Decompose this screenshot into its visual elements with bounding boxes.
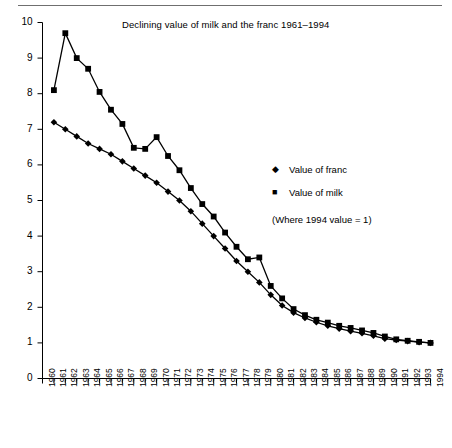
data-point-milk bbox=[359, 328, 365, 334]
square-marker-icon: ■ bbox=[272, 188, 284, 197]
x-axis-tick-label: 1976 bbox=[229, 368, 239, 387]
x-axis-tick-label: 1979 bbox=[263, 368, 273, 387]
x-axis-tick-label: 1963 bbox=[81, 368, 91, 387]
data-point-milk bbox=[211, 214, 217, 220]
x-axis-tick-label: 1960 bbox=[47, 368, 57, 387]
data-point-franc bbox=[130, 165, 137, 172]
y-axis-tick-label: 5 bbox=[11, 194, 33, 205]
x-axis-tick-label: 1966 bbox=[115, 368, 125, 387]
x-axis-tick-label: 1991 bbox=[400, 368, 410, 387]
data-point-milk bbox=[371, 330, 377, 336]
x-axis-tick-label: 1968 bbox=[138, 368, 148, 387]
data-point-milk bbox=[428, 340, 434, 346]
data-point-milk bbox=[119, 121, 125, 127]
data-point-franc bbox=[62, 126, 69, 133]
x-axis-tick-label: 1994 bbox=[435, 368, 445, 387]
x-axis-tick-label: 1964 bbox=[92, 368, 102, 387]
x-axis-tick-label: 1985 bbox=[332, 368, 342, 387]
data-point-milk bbox=[51, 87, 57, 93]
data-point-milk bbox=[416, 339, 422, 345]
data-point-franc bbox=[85, 140, 92, 147]
data-point-milk bbox=[325, 320, 331, 326]
x-axis-tick-label: 1984 bbox=[320, 368, 330, 387]
data-point-milk bbox=[268, 283, 274, 289]
x-axis-tick-label: 1978 bbox=[252, 368, 262, 387]
data-point-franc bbox=[51, 119, 58, 126]
y-axis-tick-label: 9 bbox=[11, 52, 33, 63]
y-axis-tick-label: 7 bbox=[11, 123, 33, 134]
x-axis-tick-label: 1974 bbox=[206, 368, 216, 387]
legend-item-franc: ◆ Value of franc bbox=[272, 158, 372, 181]
x-axis-tick-label: 1990 bbox=[389, 368, 399, 387]
x-axis-tick-label: 1993 bbox=[423, 368, 433, 387]
series-layer bbox=[51, 30, 434, 346]
data-point-milk bbox=[313, 317, 319, 323]
chart-legend: ◆ Value of franc ■ Value of milk (Where … bbox=[272, 158, 372, 231]
diamond-marker-icon: ◆ bbox=[272, 165, 284, 174]
legend-note: (Where 1994 value = 1) bbox=[272, 208, 372, 231]
y-axis-tick-label: 6 bbox=[11, 158, 33, 169]
data-point-milk bbox=[108, 107, 114, 113]
x-axis-tick-label: 1992 bbox=[412, 368, 422, 387]
x-axis-tick-label: 1965 bbox=[104, 368, 114, 387]
x-axis-tick-label: 1986 bbox=[343, 368, 353, 387]
data-point-milk bbox=[142, 146, 148, 152]
data-point-milk bbox=[336, 323, 342, 329]
x-axis-tick-label: 1977 bbox=[241, 368, 251, 387]
data-point-milk bbox=[405, 338, 411, 344]
data-point-milk bbox=[393, 336, 399, 342]
y-axis-tick-label: 3 bbox=[11, 265, 33, 276]
data-point-franc bbox=[119, 158, 126, 165]
y-axis-tick-label: 8 bbox=[11, 87, 33, 98]
data-point-franc bbox=[96, 146, 103, 153]
x-axis-tick-label: 1970 bbox=[161, 368, 171, 387]
x-axis-tick-label: 1962 bbox=[69, 368, 79, 387]
x-axis-tick-label: 1981 bbox=[286, 368, 296, 387]
data-point-milk bbox=[85, 66, 91, 72]
data-point-milk bbox=[74, 55, 80, 61]
data-point-milk bbox=[165, 153, 171, 159]
data-point-milk bbox=[234, 244, 240, 250]
data-point-milk bbox=[97, 89, 103, 95]
data-point-milk bbox=[256, 255, 262, 261]
x-axis-tick-label: 1971 bbox=[172, 368, 182, 387]
data-point-milk bbox=[382, 334, 388, 340]
x-axis-tick-label: 1987 bbox=[355, 368, 365, 387]
x-axis-tick-label: 1961 bbox=[58, 368, 68, 387]
data-point-franc bbox=[73, 133, 80, 140]
data-point-milk bbox=[222, 230, 228, 236]
y-axis-tick-label: 0 bbox=[11, 372, 33, 383]
data-point-franc bbox=[108, 151, 115, 158]
data-point-milk bbox=[348, 325, 354, 331]
x-axis-tick-label: 1969 bbox=[149, 368, 159, 387]
data-point-milk bbox=[245, 256, 251, 262]
legend-label-franc: Value of franc bbox=[289, 158, 347, 181]
legend-label-milk: Value of milk bbox=[289, 181, 343, 204]
x-axis-tick-label: 1989 bbox=[377, 368, 387, 387]
data-point-milk bbox=[279, 296, 285, 302]
data-point-milk bbox=[291, 306, 297, 312]
x-axis-tick-label: 1975 bbox=[218, 368, 228, 387]
data-point-milk bbox=[188, 185, 194, 191]
axis-layer bbox=[38, 23, 431, 384]
data-point-milk bbox=[302, 312, 308, 318]
series-line-value-of-milk bbox=[54, 33, 431, 343]
x-axis-tick-label: 1972 bbox=[183, 368, 193, 387]
data-point-franc bbox=[142, 172, 149, 179]
y-axis-tick-label: 1 bbox=[11, 336, 33, 347]
data-point-milk bbox=[177, 167, 183, 173]
x-axis-tick-label: 1988 bbox=[366, 368, 376, 387]
data-point-milk bbox=[62, 30, 68, 36]
legend-item-milk: ■ Value of milk bbox=[272, 181, 372, 204]
data-point-milk bbox=[199, 201, 205, 207]
figure-container: Declining value of milk and the franc 19… bbox=[0, 0, 452, 448]
x-axis-tick-label: 1983 bbox=[309, 368, 319, 387]
x-axis-tick-label: 1982 bbox=[298, 368, 308, 387]
x-axis-tick-label: 1973 bbox=[195, 368, 205, 387]
y-axis-tick-label: 10 bbox=[11, 16, 33, 27]
x-axis-tick-label: 1980 bbox=[275, 368, 285, 387]
x-axis-tick-label: 1967 bbox=[126, 368, 136, 387]
y-axis-tick-label: 4 bbox=[11, 230, 33, 241]
data-point-milk bbox=[131, 145, 137, 151]
y-axis-tick-label: 2 bbox=[11, 301, 33, 312]
